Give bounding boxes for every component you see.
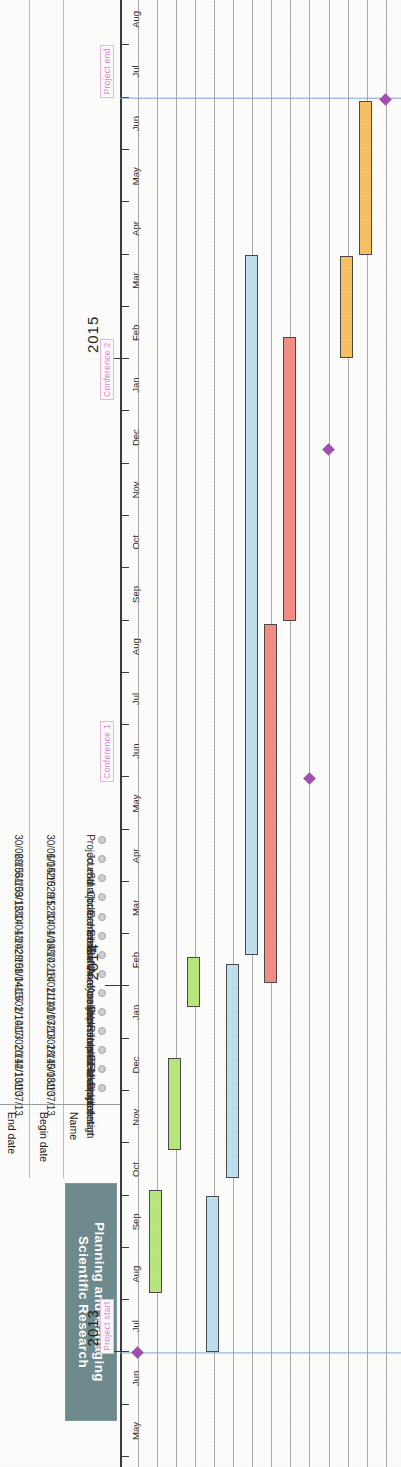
gantt-timeline-area: MayJunJulAugSepOctNovDecJanFebMarAprMayJ… [120,0,401,1467]
axis-tick [122,1456,129,1457]
row-bullet-icon [98,1065,106,1073]
table-column-header: Name [68,1112,80,1140]
axis-month-label: Apr [130,848,141,863]
report-title-line-2: Scientific Research [75,1236,91,1368]
axis-month-label: Jun [130,743,141,758]
axis-tick [122,567,129,568]
axis-month-label: Jun [130,116,141,131]
row-bullet-icon [98,1084,106,1092]
gantt-bar[interactable] [206,1196,219,1353]
gantt-milestone[interactable] [379,93,392,106]
axis-month-label: Aug [130,638,141,655]
axis-tick [122,620,129,621]
gantt-bar[interactable] [359,101,372,254]
axis-month-label: Jul [130,65,141,77]
row-gridline [348,0,349,1467]
row-gridline [309,0,310,1467]
table-column-divider [29,0,30,1178]
axis-tick [122,672,129,673]
axis-month-label: May [130,1422,141,1440]
row-bullet-icon [98,989,106,997]
axis-month-label: Oct [130,535,141,550]
gantt-bar[interactable] [283,337,296,621]
axis-tick [122,776,129,777]
gantt-bar[interactable] [226,964,239,1178]
gantt-chart-rotated-canvas: Planning and Managing Scientific Researc… [0,0,401,1467]
timeline-annotation: Project end [100,45,114,97]
axis-month-label: Jan [130,1005,141,1020]
axis-tick [122,463,129,464]
row-gridline [290,0,291,1467]
gantt-milestone[interactable] [322,443,335,456]
axis-tick [122,1404,129,1405]
gantt-bar[interactable] [264,624,277,983]
row-bullet-icon [98,836,106,844]
axis-month-label: Mar [130,900,141,916]
axis-month-label: Oct [130,1162,141,1177]
axis-month-label: Nov [130,1109,141,1126]
axis-tick [122,254,129,255]
row-bullet-icon [98,1027,106,1035]
gantt-bar[interactable] [340,256,353,357]
axis-tick [122,1195,129,1196]
axis-month-label: Aug [130,1266,141,1283]
axis-year-label: 2015 [84,316,101,353]
gantt-bar[interactable] [168,1058,181,1150]
row-gridline [386,0,387,1467]
axis-tick [122,44,129,45]
row-bullet-icon [98,932,106,940]
axis-month-label: Mar [130,272,141,288]
row-gridline [176,0,177,1467]
axis-tick [122,410,129,411]
row-bullet-icon [98,855,106,863]
axis-tick [122,829,129,830]
timeline-annotation: Conference 2 [100,339,114,400]
axis-month-label: May [130,795,141,813]
gantt-milestone[interactable] [303,773,316,786]
gantt-bar[interactable] [245,255,258,956]
gantt-bar[interactable] [187,957,200,1007]
axis-year-label: 2014 [84,943,101,980]
row-bullet-icon [98,1046,106,1054]
axis-tick [122,881,129,882]
axis-tick [122,201,129,202]
axis-month-label: Jun [130,1371,141,1386]
axis-tick [122,306,129,307]
axis-tick [122,149,129,150]
row-bullet-icon [98,893,106,901]
project-guide-line [120,1352,401,1353]
axis-tick [122,1090,129,1091]
gantt-bar[interactable] [149,1190,162,1293]
axis-month-label: May [130,167,141,185]
table-column-header: Begin date [38,1112,50,1162]
row-bullet-icon [98,913,106,921]
axis-month-label: Sep [130,586,141,603]
timeline-annotation: Project start [100,1299,114,1354]
axis-month-label: Jul [130,1320,141,1332]
axis-month-label: Apr [130,221,141,236]
axis-tick [122,1247,129,1248]
table-cell-begin-date: 30/06/15 [45,834,56,873]
axis-tick [122,724,129,725]
gantt-milestone[interactable] [131,1346,144,1359]
table-cell-end-date: 30/06/15 [13,834,24,873]
table-column-header: End date [6,1112,18,1154]
axis-month-label: Jul [130,693,141,705]
row-gridline [138,0,139,1467]
axis-tick [122,1038,129,1039]
axis-month-label: Feb [130,952,141,968]
row-gridline [195,0,196,1467]
axis-tick [122,515,129,516]
axis-month-label: Jan [130,377,141,392]
row-gridline [329,0,330,1467]
axis-month-label: Aug [130,11,141,28]
project-guide-line [120,98,401,99]
timeline-annotation: Conference 1 [100,721,114,782]
axis-year-tick [105,985,120,986]
axis-tick [122,933,129,934]
axis-month-label: Dec [130,429,141,446]
axis-tick [122,1299,129,1300]
axis-month-label: Feb [130,325,141,341]
axis-month-label: Sep [130,1213,141,1230]
row-bullet-icon [98,874,106,882]
